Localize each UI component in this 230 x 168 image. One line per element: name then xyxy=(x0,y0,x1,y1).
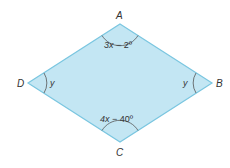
angle-label-d: y xyxy=(49,78,55,88)
vertex-label-d: D xyxy=(17,78,24,89)
vertex-label-a: A xyxy=(115,10,123,21)
angle-label-c: 4x − 40º xyxy=(100,114,134,124)
rhombus-diagram: A B C D 3x − 2º 4x − 40º y y xyxy=(0,0,230,168)
vertex-label-b: B xyxy=(216,78,223,89)
vertex-label-c: C xyxy=(116,147,124,158)
angle-label-a: 3x − 2º xyxy=(104,40,133,50)
angle-label-b: y xyxy=(182,78,188,88)
